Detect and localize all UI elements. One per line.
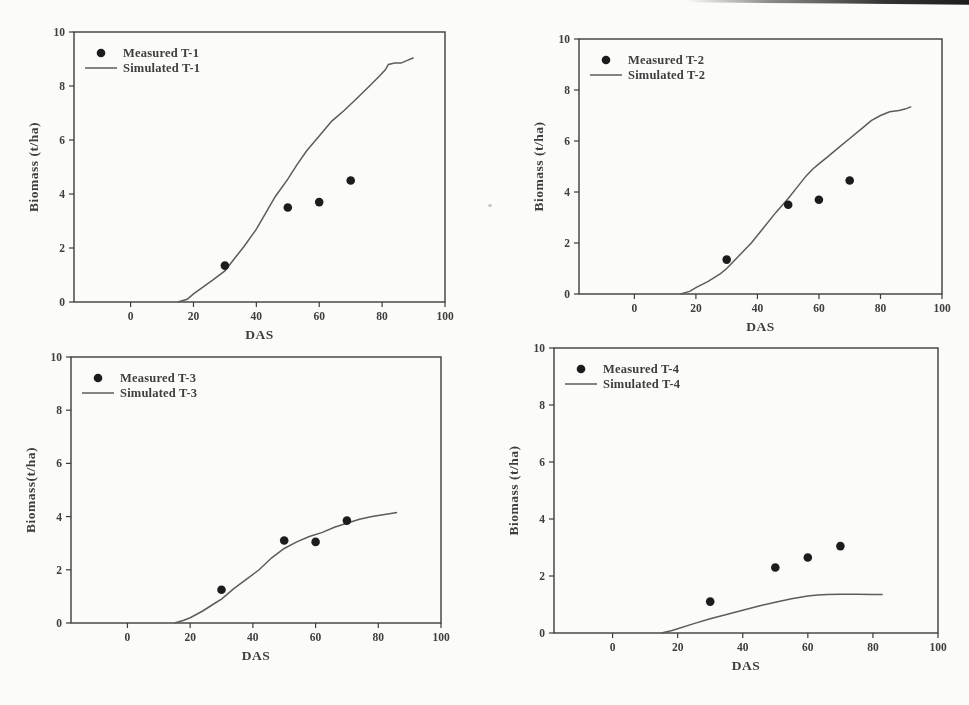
x-tick-label: 100 [436, 310, 454, 322]
x-tick-label: 40 [752, 302, 764, 314]
legend-measured-label: Measured T-2 [628, 53, 704, 67]
y-tick-label: 0 [56, 617, 62, 629]
x-tick-label: 100 [933, 302, 951, 314]
legend-measured-label: Measured T-3 [120, 371, 196, 385]
simulated-line [681, 107, 912, 294]
legend-simulated-label: Simulated T-3 [120, 386, 197, 400]
y-tick-label: 10 [54, 26, 66, 38]
y-tick-label: 8 [564, 84, 570, 96]
legend-measured-label: Measured T-4 [603, 362, 680, 376]
x-tick-label: 20 [188, 310, 200, 322]
legend-simulated-label: Simulated T-1 [123, 61, 200, 75]
measured-point [346, 176, 355, 185]
y-tick-label: 6 [539, 456, 545, 468]
y-tick-label: 10 [559, 33, 571, 45]
measured-point [706, 597, 715, 606]
measured-point [845, 176, 854, 185]
x-tick-label: 80 [867, 641, 879, 653]
y-tick-label: 8 [59, 80, 65, 92]
legend-measured-marker [602, 56, 611, 65]
y-tick-label: 10 [534, 342, 546, 354]
y-tick-label: 8 [56, 404, 62, 416]
legend-measured-marker [97, 49, 106, 58]
x-tick-label: 20 [184, 631, 196, 643]
y-tick-label: 4 [539, 513, 545, 525]
x-tick-label: 60 [813, 302, 825, 314]
x-tick-label: 60 [802, 641, 814, 653]
x-axis-label: DAS [245, 327, 274, 342]
measured-point [722, 255, 731, 264]
x-tick-label: 40 [247, 631, 259, 643]
y-axis-label: Biomass (t/ha) [26, 122, 41, 212]
biomass-charts-figure: 0204060801000246810DASBiomass (t/ha)Meas… [0, 0, 969, 705]
chart-t2: 0204060801000246810DASBiomass (t/ha)Meas… [531, 33, 951, 334]
y-tick-label: 2 [564, 237, 570, 249]
chart-t1: 0204060801000246810DASBiomass (t/ha)Meas… [26, 26, 454, 342]
y-tick-label: 6 [56, 457, 62, 469]
y-tick-label: 10 [51, 351, 63, 363]
measured-point [311, 538, 320, 547]
chart-t3: 0204060801000246810DASBiomass(t/ha)Measu… [23, 351, 450, 663]
measured-point [280, 536, 289, 545]
x-tick-label: 100 [929, 641, 947, 653]
measured-point [343, 516, 352, 525]
x-tick-label: 80 [373, 631, 385, 643]
legend-measured-label: Measured T-1 [123, 46, 199, 60]
x-axis-label: DAS [732, 658, 761, 673]
legend-measured-marker [577, 365, 586, 374]
measured-point [315, 198, 324, 207]
chart-t4: 0204060801000246810DASBiomass (t/ha)Meas… [506, 342, 947, 673]
y-tick-label: 0 [539, 627, 545, 639]
y-tick-label: 0 [59, 296, 65, 308]
x-tick-label: 60 [310, 631, 322, 643]
y-tick-label: 4 [59, 188, 65, 200]
y-tick-label: 2 [539, 570, 545, 582]
y-tick-label: 6 [59, 134, 65, 146]
x-tick-label: 20 [672, 641, 684, 653]
x-tick-label: 60 [313, 310, 325, 322]
measured-point [804, 553, 813, 562]
measured-point [815, 195, 824, 204]
measured-point [784, 201, 793, 210]
x-axis-label: DAS [746, 319, 775, 334]
legend-simulated-label: Simulated T-2 [628, 68, 705, 82]
measured-point [284, 203, 293, 212]
y-tick-label: 4 [564, 186, 570, 198]
simulated-line [178, 58, 414, 302]
x-tick-label: 0 [631, 302, 637, 314]
measured-point [836, 542, 845, 551]
simulated-line [175, 513, 398, 623]
scanned-figure-page: 0204060801000246810DASBiomass (t/ha)Meas… [0, 0, 969, 705]
x-tick-label: 0 [125, 631, 131, 643]
y-tick-label: 2 [56, 564, 62, 576]
y-axis-label: Biomass (t/ha) [531, 122, 546, 212]
x-tick-label: 20 [690, 302, 702, 314]
x-tick-label: 40 [737, 641, 749, 653]
x-tick-label: 0 [610, 641, 616, 653]
y-axis-label: Biomass (t/ha) [506, 446, 521, 536]
x-tick-label: 80 [376, 310, 388, 322]
y-axis-label: Biomass(t/ha) [23, 447, 38, 533]
measured-point [221, 261, 230, 270]
x-tick-label: 0 [128, 310, 134, 322]
y-tick-label: 6 [564, 135, 570, 147]
y-tick-label: 0 [564, 288, 570, 300]
simulated-line [661, 594, 882, 633]
legend-measured-marker [94, 374, 103, 383]
measured-point [217, 586, 226, 595]
x-tick-label: 40 [251, 310, 263, 322]
y-tick-label: 2 [59, 242, 65, 254]
legend-simulated-label: Simulated T-4 [603, 377, 681, 391]
x-tick-label: 80 [875, 302, 887, 314]
y-tick-label: 8 [539, 399, 545, 411]
y-tick-label: 4 [56, 511, 62, 523]
measured-point [771, 563, 780, 572]
x-axis-label: DAS [242, 648, 271, 663]
x-tick-label: 100 [432, 631, 450, 643]
